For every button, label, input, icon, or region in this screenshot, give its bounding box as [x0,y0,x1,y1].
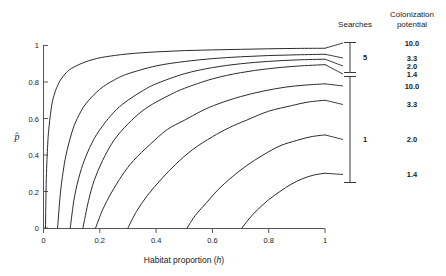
chart-curve [58,54,325,228]
legend-leader-line [325,43,343,48]
y-axis-title: p̂ [14,131,20,142]
colonization-potential-value: 10.0 [405,82,420,91]
chart-figure: 1 0.8 0.6 0.4 0.2 0 0 0.2 0.4 0.6 0.8 1 … [0,0,446,276]
y-tick-label: 0 [35,224,39,233]
legend-header-colonization-line2: potential [397,20,427,29]
colonization-potential-value: 3.3 [407,100,417,109]
legend-leader-lines [325,43,343,175]
chart-curve [83,65,325,228]
x-axis-title-text: Habitat proportion ( [144,255,217,265]
legend-leader-line [325,135,343,140]
legend-leader-line [325,59,343,66]
y-axis-tick-labels: 1 0.8 0.6 0.4 0.2 0 [29,41,39,233]
x-axis-title: Habitat proportion (h) [144,255,225,265]
x-tick-label: 0.8 [263,236,273,245]
x-tick-label: 0.2 [95,236,105,245]
colonization-potential-value: 2.0 [407,135,417,144]
chart-curves-group [45,48,325,228]
searches-bracket-5 [344,43,356,73]
chart-curve [242,173,325,228]
searches-bracket-1 [344,77,356,183]
searches-value-1: 1 [363,135,367,144]
legend-leader-line [325,54,343,58]
searches-value-5: 5 [363,53,367,62]
x-tick-label: 0.6 [207,236,217,245]
legend-leader-line [325,84,343,86]
chart-curve [187,135,325,228]
x-tick-label: 0.4 [151,236,161,245]
y-tick-label: 0.2 [29,188,39,197]
legend-header-colonization-line1: Colonization [390,10,434,19]
y-tick-label: 0.8 [29,78,39,87]
x-axis-tick-labels: 0 0.2 0.4 0.6 0.8 1 [41,236,327,245]
y-tick-label: 0.6 [29,115,39,124]
legend-leader-line [325,65,343,74]
legend-leader-line [325,100,343,104]
chart-svg: 1 0.8 0.6 0.4 0.2 0 0 0.2 0.4 0.6 0.8 1 … [0,0,446,276]
legend-header-searches: Searches [338,20,372,29]
x-tick-label: 0 [41,236,45,245]
x-tick-label: 1 [323,236,327,245]
colonization-potential-value: 10.0 [405,39,420,48]
chart-curve [128,100,325,228]
colonization-potential-value: 1.4 [407,170,418,179]
colonization-potential-value: 1.4 [407,70,418,79]
chart-curve [45,48,325,228]
x-axis-ticks [44,229,326,234]
y-tick-label: 1 [35,41,39,50]
legend-leader-line [325,173,343,174]
y-tick-label: 0.4 [29,151,39,160]
